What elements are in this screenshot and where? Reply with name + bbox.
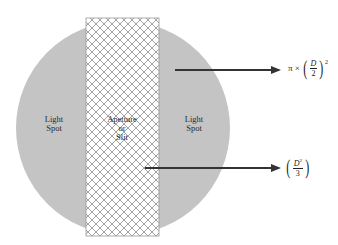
left-paren: ( (303, 58, 307, 78)
fraction: D 2 (310, 59, 318, 78)
right-light-spot-label: Light Spot (176, 115, 212, 133)
numerator-exponent: 2 (299, 158, 302, 163)
right-paren: ) (305, 157, 309, 177)
right-paren: ) (320, 58, 324, 78)
fraction: D2 3 (293, 156, 303, 178)
left-spot-line2: Spot (36, 124, 72, 133)
exponent: 2 (325, 59, 328, 65)
pi-times: π × (288, 63, 300, 73)
left-light-spot-label: Light Spot (36, 115, 72, 133)
slit-area-formula: ( D2 3 ) (285, 156, 311, 178)
denominator: 3 (296, 169, 300, 178)
right-spot-line2: Spot (176, 124, 212, 133)
aperture-label: Apetture or Slit (92, 115, 152, 142)
numerator: D (310, 59, 318, 69)
aperture-line3: Slit (92, 133, 152, 142)
numerator: D2 (293, 156, 303, 169)
denominator: 2 (311, 69, 315, 78)
left-paren: ( (286, 157, 290, 177)
spot-area-formula: π × ( D 2 ) 2 (288, 58, 328, 78)
